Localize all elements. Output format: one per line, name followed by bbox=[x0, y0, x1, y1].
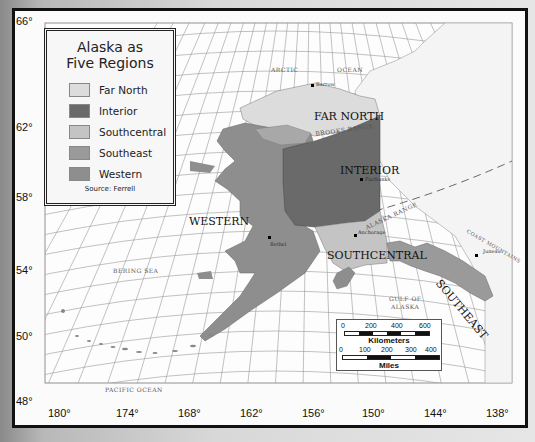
lat-label-50: 50° bbox=[16, 330, 33, 342]
legend-swatch-interior bbox=[69, 104, 90, 118]
km-tick-0: 0 bbox=[341, 322, 345, 329]
legend-title-line2: Five Regions bbox=[47, 55, 173, 71]
scale-bar: 0 200 400 600 Kilometers 0 100 200 300 4… bbox=[336, 319, 442, 371]
lon-label-138: 138° bbox=[486, 407, 509, 419]
lat-label-48: 48° bbox=[16, 395, 33, 407]
city-label-juneau: Juneau bbox=[483, 248, 501, 254]
water-label-gulf-of-alaska-2: ALASKA bbox=[391, 303, 419, 310]
region-label-western: WESTERN bbox=[189, 215, 249, 228]
lon-label-168: 168° bbox=[178, 407, 201, 419]
legend-item-southeast: Southeast bbox=[69, 142, 173, 163]
water-label-arctic: ARCTIC bbox=[271, 66, 298, 73]
lon-label-162: 162° bbox=[240, 407, 263, 419]
legend: Alaska as Five Regions Far North Interio… bbox=[44, 28, 176, 206]
legend-swatch-southeast bbox=[69, 146, 90, 160]
legend-title-line1: Alaska as bbox=[47, 39, 173, 55]
city-dot-fairbanks bbox=[360, 178, 363, 181]
city-dot-juneau bbox=[475, 254, 478, 257]
mi-tick-400: 400 bbox=[425, 346, 437, 353]
legend-swatch-southcentral bbox=[69, 125, 90, 139]
mi-tick-300: 300 bbox=[405, 346, 417, 353]
legend-label-far-north: Far North bbox=[99, 84, 148, 96]
lat-label-66: 66° bbox=[16, 15, 33, 27]
lon-label-150: 150° bbox=[362, 407, 385, 419]
water-label-gulf-of-alaska-1: GULF OF bbox=[389, 295, 422, 302]
lat-label-62: 62° bbox=[16, 121, 33, 133]
legend-label-interior: Interior bbox=[99, 105, 137, 117]
km-tick-200: 200 bbox=[365, 322, 377, 329]
mi-tick-200: 200 bbox=[381, 346, 393, 353]
region-label-southcentral: SOUTHCENTRAL bbox=[327, 249, 427, 262]
legend-item-far-north: Far North bbox=[69, 79, 173, 100]
city-dot-bethel bbox=[268, 236, 271, 239]
legend-items: Far North Interior Southcentral Southeas… bbox=[69, 79, 173, 184]
legend-item-southcentral: Southcentral bbox=[69, 121, 173, 142]
region-label-far-north: FAR NORTH bbox=[314, 110, 384, 123]
city-label-bethel: Bethel bbox=[270, 241, 286, 247]
mi-tick-100: 100 bbox=[359, 346, 371, 353]
legend-title: Alaska as Five Regions bbox=[47, 39, 173, 71]
lon-label-144: 144° bbox=[424, 407, 447, 419]
km-tick-600: 600 bbox=[419, 322, 431, 329]
water-label-pacific-ocean: PACIFIC OCEAN bbox=[105, 386, 163, 393]
legend-label-western: Western bbox=[99, 168, 142, 180]
mi-tick-0: 0 bbox=[339, 346, 343, 353]
mi-bar bbox=[342, 355, 440, 360]
legend-item-interior: Interior bbox=[69, 100, 173, 121]
lat-label-54: 54° bbox=[16, 264, 33, 276]
lon-label-180: 180° bbox=[48, 407, 71, 419]
lat-label-58: 58° bbox=[16, 191, 33, 203]
legend-swatch-far-north bbox=[69, 83, 90, 97]
legend-source: Source: Ferrell bbox=[47, 185, 173, 193]
km-tick-400: 400 bbox=[391, 322, 403, 329]
mi-label: Miles bbox=[337, 361, 441, 370]
legend-label-southcentral: Southcentral bbox=[99, 126, 166, 138]
legend-label-southeast: Southeast bbox=[99, 147, 152, 159]
legend-item-western: Western bbox=[69, 163, 173, 184]
city-dot-barrow bbox=[311, 84, 314, 87]
water-label-bering-sea: BERING SEA bbox=[113, 267, 158, 274]
legend-swatch-western bbox=[69, 167, 90, 181]
city-label-anchorage: Anchorage bbox=[358, 229, 385, 235]
km-label: Kilometers bbox=[337, 336, 441, 345]
city-dot-anchorage bbox=[354, 234, 357, 237]
city-label-barrow: Barrow bbox=[316, 81, 335, 87]
water-label-ocean: OCEAN bbox=[337, 66, 363, 73]
lon-label-174: 174° bbox=[116, 407, 139, 419]
lon-label-156: 156° bbox=[302, 407, 325, 419]
city-label-fairbanks: Fairbanks bbox=[365, 176, 390, 182]
